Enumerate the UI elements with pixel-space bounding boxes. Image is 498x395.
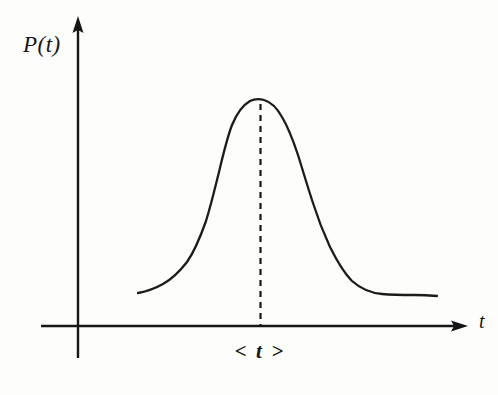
figure-canvas: P(t) t < t >	[0, 0, 498, 395]
plot-svg	[0, 0, 498, 395]
x-axis-label: t	[479, 311, 485, 331]
y-axis-label: P(t)	[23, 33, 61, 56]
mean-marker-label: < t >	[213, 341, 307, 362]
distribution-curve	[138, 99, 437, 296]
